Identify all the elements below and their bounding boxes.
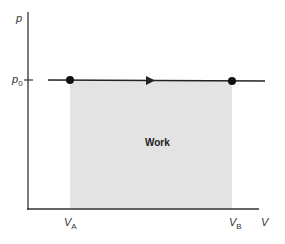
vb-sub: B (236, 222, 241, 231)
point-b (228, 77, 236, 85)
va-sub: A (71, 222, 76, 231)
pv-diagram (0, 0, 285, 244)
va-label: VA (64, 217, 77, 228)
p0-label: p0 (12, 74, 23, 85)
y-axis-label: p (16, 13, 22, 24)
x-axis-label: V (261, 217, 268, 228)
work-label: Work (145, 137, 170, 148)
p0-sub: 0 (18, 79, 22, 88)
point-a (66, 76, 74, 84)
vb-label: VB (229, 217, 242, 228)
